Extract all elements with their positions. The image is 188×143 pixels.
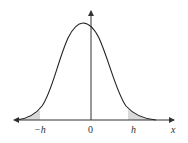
neg-h-label: −h [34,124,46,135]
bell-curve [16,23,156,120]
h-label: h [131,124,136,135]
zero-label: 0 [88,124,93,135]
right-tail-shading [128,109,156,120]
x-axis-label: x [170,124,176,135]
normal-curve-diagram: −h 0 h x [0,0,188,143]
